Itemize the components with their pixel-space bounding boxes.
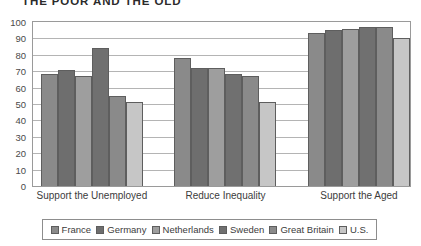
legend-item[interactable]: Great Britain xyxy=(269,224,333,235)
bar-group xyxy=(41,22,143,186)
bar[interactable] xyxy=(342,29,359,186)
y-tick-label: 70 xyxy=(15,66,26,77)
legend-swatch-icon xyxy=(269,226,277,234)
y-axis: 1009080706050403020100 xyxy=(0,21,30,187)
bar[interactable] xyxy=(225,74,242,186)
bar[interactable] xyxy=(308,33,325,186)
x-category-label: Support the Unemployed xyxy=(37,190,148,201)
legend-label: Sweden xyxy=(230,224,264,235)
y-tick-label: 10 xyxy=(15,164,26,175)
bar[interactable] xyxy=(325,30,342,186)
legend: FranceGermanyNetherlandsSwedenGreat Brit… xyxy=(42,219,377,240)
y-tick-label: 50 xyxy=(15,99,26,110)
bar[interactable] xyxy=(92,48,109,186)
legend-swatch-icon xyxy=(51,226,59,234)
legend-item[interactable]: Germany xyxy=(96,224,146,235)
bar[interactable] xyxy=(174,58,191,186)
legend-label: France xyxy=(62,224,92,235)
bar[interactable] xyxy=(58,70,75,186)
legend-item[interactable]: Sweden xyxy=(219,224,264,235)
legend-swatch-icon xyxy=(339,226,347,234)
bar[interactable] xyxy=(126,102,143,186)
y-tick-label: 90 xyxy=(15,33,26,44)
bar-lead-gap xyxy=(33,185,41,186)
legend-item[interactable]: Netherlands xyxy=(152,224,214,235)
bar[interactable] xyxy=(359,27,376,186)
bar[interactable] xyxy=(393,38,410,186)
bar[interactable] xyxy=(242,76,259,186)
bar[interactable] xyxy=(109,96,126,186)
bar[interactable] xyxy=(259,102,276,186)
bar-series-layer xyxy=(33,22,410,186)
legend-label: Great Britain xyxy=(280,224,333,235)
y-tick-label: 80 xyxy=(15,49,26,60)
bar[interactable] xyxy=(75,76,92,186)
y-tick-label: 100 xyxy=(10,17,26,28)
x-category-label: Support the Aged xyxy=(320,190,397,201)
legend-label: U.S. xyxy=(350,224,368,235)
y-tick-label: 30 xyxy=(15,131,26,142)
bar[interactable] xyxy=(41,74,58,186)
legend-item[interactable]: France xyxy=(51,224,92,235)
y-tick-label: 20 xyxy=(15,148,26,159)
x-axis: Support the UnemployedReduce InequalityS… xyxy=(32,190,411,206)
bar-group xyxy=(308,22,410,186)
bar[interactable] xyxy=(376,27,393,186)
bar[interactable] xyxy=(208,68,225,186)
bar[interactable] xyxy=(191,68,208,186)
legend-swatch-icon xyxy=(152,226,160,234)
legend-swatch-icon xyxy=(96,226,104,234)
x-category-label: Reduce Inequality xyxy=(185,190,265,201)
legend-item[interactable]: U.S. xyxy=(339,224,368,235)
y-tick-label: 0 xyxy=(21,181,26,192)
bar-group-gap xyxy=(143,185,175,186)
y-tick-label: 40 xyxy=(15,115,26,126)
bar-group xyxy=(174,22,276,186)
chart-title: THE POOR AND THE OLD xyxy=(22,0,181,7)
y-tick-label: 60 xyxy=(15,82,26,93)
legend-label: Germany xyxy=(107,224,146,235)
bar-group-gap xyxy=(276,185,308,186)
legend-label: Netherlands xyxy=(163,224,214,235)
legend-swatch-icon xyxy=(219,226,227,234)
